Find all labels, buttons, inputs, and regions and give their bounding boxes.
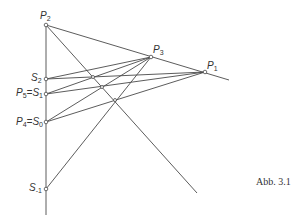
label-p4-s0: P4=S0 — [16, 117, 43, 128]
line-p2-diagonal — [46, 25, 197, 193]
point-sm1 — [44, 187, 48, 191]
point-p2 — [44, 23, 48, 27]
label-p5-s1: P5=S1 — [16, 88, 43, 99]
intersection-3 — [114, 99, 117, 102]
figure-caption: Abb. 3.1 — [256, 176, 291, 187]
line-s0-p3 — [46, 57, 151, 122]
label-p2: P2 — [40, 11, 51, 22]
label-s-minus-1: S-1 — [29, 183, 42, 194]
point-s2 — [44, 77, 48, 81]
point-s0 — [44, 120, 48, 124]
intersection-2 — [101, 86, 104, 89]
label-p3: P3 — [153, 45, 164, 56]
label-p1: P1 — [207, 61, 218, 72]
intersection-1 — [92, 76, 95, 79]
label-s2: S2 — [31, 73, 42, 84]
perspective-construction-diagram — [0, 0, 306, 224]
point-s1 — [44, 92, 48, 96]
line-s0-p1 — [46, 72, 205, 122]
